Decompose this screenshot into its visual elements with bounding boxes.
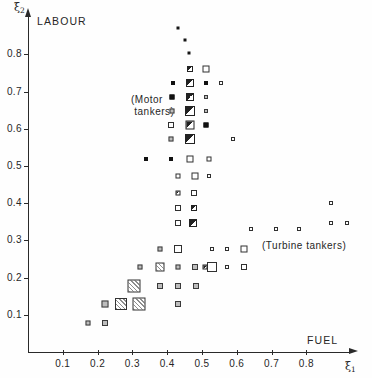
data-point-marker bbox=[169, 157, 173, 161]
data-point-marker bbox=[102, 320, 108, 326]
data-point-marker bbox=[274, 227, 278, 231]
x-tick-mark bbox=[63, 350, 64, 355]
data-point-marker bbox=[241, 264, 247, 270]
y-axis-symbol-sub: 2 bbox=[20, 6, 25, 15]
y-tick-mark bbox=[24, 129, 29, 130]
data-point-marker bbox=[185, 134, 195, 144]
y-tick-mark bbox=[24, 278, 29, 279]
data-point-marker bbox=[225, 265, 229, 269]
data-point-marker bbox=[170, 108, 175, 113]
data-point-marker bbox=[155, 263, 164, 272]
data-point-marker bbox=[207, 262, 217, 272]
x-axis-title: FUEL bbox=[307, 334, 338, 346]
data-point-marker bbox=[202, 265, 207, 270]
data-point-marker bbox=[132, 298, 145, 311]
data-point-marker bbox=[175, 190, 180, 195]
data-point-marker bbox=[168, 122, 174, 128]
data-point-marker bbox=[329, 201, 333, 205]
data-point-marker bbox=[171, 81, 175, 85]
x-axis-line bbox=[28, 352, 350, 353]
data-point-marker bbox=[175, 301, 181, 307]
y-tick-label: 0.4 bbox=[0, 197, 22, 208]
data-point-marker bbox=[204, 109, 208, 113]
x-tick-mark bbox=[272, 350, 273, 355]
x-axis-arrow-icon bbox=[349, 348, 358, 354]
y-tick-label: 0.7 bbox=[0, 86, 22, 97]
data-point-marker bbox=[102, 301, 109, 308]
y-axis-line bbox=[28, 16, 29, 352]
data-point-marker bbox=[240, 245, 247, 252]
data-point-marker bbox=[175, 205, 181, 211]
y-tick-mark bbox=[24, 315, 29, 316]
y-tick-label: 0.2 bbox=[0, 272, 22, 283]
y-axis-symbol: ξ2 bbox=[14, 1, 25, 15]
x-tick-label: 0.8 bbox=[294, 358, 318, 369]
annotation-motor-tankers: (Motor tankers) bbox=[131, 94, 174, 118]
data-point-marker bbox=[192, 173, 199, 180]
data-point-marker bbox=[175, 220, 181, 226]
annotation-turbine-tankers: (Turbine tankers) bbox=[262, 240, 346, 252]
y-tick-mark bbox=[24, 54, 29, 55]
x-axis-symbol: ξ1 bbox=[345, 360, 356, 374]
x-tick-label: 0.6 bbox=[225, 358, 249, 369]
y-axis-title: LABOUR bbox=[37, 15, 87, 27]
data-point-marker bbox=[85, 320, 90, 325]
data-point-marker bbox=[297, 227, 301, 231]
data-point-marker bbox=[219, 81, 223, 85]
data-point-marker bbox=[138, 265, 143, 270]
y-tick-label: 0.3 bbox=[0, 234, 22, 245]
data-point-marker bbox=[249, 227, 253, 231]
data-point-marker bbox=[176, 174, 181, 179]
data-point-marker bbox=[128, 279, 141, 292]
x-tick-mark bbox=[98, 350, 99, 355]
data-point-marker bbox=[144, 157, 148, 161]
x-tick-label: 0.2 bbox=[86, 358, 110, 369]
data-point-marker bbox=[191, 205, 197, 211]
data-point-marker bbox=[184, 38, 187, 41]
data-point-marker bbox=[203, 65, 210, 72]
y-tick-mark bbox=[24, 203, 29, 204]
y-tick-mark bbox=[24, 166, 29, 167]
x-tick-mark bbox=[132, 350, 133, 355]
data-point-marker bbox=[210, 247, 214, 251]
y-tick-label: 0.1 bbox=[0, 309, 22, 320]
data-point-marker bbox=[157, 283, 163, 289]
x-tick-label: 0.3 bbox=[120, 358, 144, 369]
y-tick-mark bbox=[24, 240, 29, 241]
x-axis-symbol-sub: 1 bbox=[351, 365, 356, 374]
data-point-marker bbox=[186, 93, 194, 101]
data-point-marker bbox=[192, 264, 198, 270]
data-point-marker bbox=[157, 246, 162, 251]
data-point-marker bbox=[204, 81, 208, 85]
data-point-marker bbox=[329, 221, 333, 225]
data-point-marker bbox=[115, 298, 127, 310]
data-point-marker bbox=[204, 123, 209, 128]
y-axis-arrow-icon bbox=[25, 8, 31, 17]
data-point-marker bbox=[188, 51, 191, 54]
data-point-marker bbox=[345, 221, 349, 225]
x-tick-mark bbox=[306, 350, 307, 355]
data-point-marker bbox=[225, 247, 229, 251]
data-point-marker bbox=[176, 265, 181, 270]
data-point-marker bbox=[175, 283, 181, 289]
data-point-marker bbox=[170, 94, 175, 99]
data-point-marker bbox=[189, 219, 197, 227]
data-point-marker bbox=[186, 121, 195, 130]
data-point-marker bbox=[193, 283, 199, 289]
x-tick-label: 0.4 bbox=[155, 358, 179, 369]
x-tick-mark bbox=[237, 350, 238, 355]
data-point-marker bbox=[207, 174, 211, 178]
x-tick-mark bbox=[167, 350, 168, 355]
y-tick-label: 0.8 bbox=[0, 48, 22, 59]
data-point-marker bbox=[185, 106, 195, 116]
y-tick-label: 0.6 bbox=[0, 123, 22, 134]
y-tick-mark bbox=[24, 92, 29, 93]
data-point-marker bbox=[187, 66, 193, 72]
y-tick-label: 0.5 bbox=[0, 160, 22, 171]
x-tick-label: 0.5 bbox=[190, 358, 214, 369]
data-point-marker bbox=[191, 190, 197, 196]
data-point-marker bbox=[174, 245, 182, 253]
x-tick-label: 0.7 bbox=[260, 358, 284, 369]
data-point-marker bbox=[231, 137, 235, 141]
data-point-marker bbox=[204, 95, 208, 99]
